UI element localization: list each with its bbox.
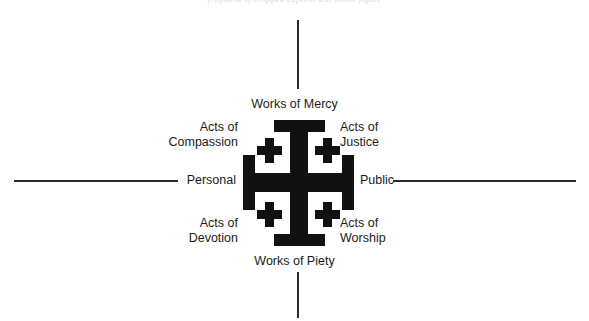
quadrant-label-line1: Acts of — [340, 216, 486, 231]
quadrant-label-line1: Acts of — [340, 120, 486, 135]
axis-label-public: Public — [360, 173, 478, 188]
clipped-caption-text: fragment of cropped caption text above f… — [0, 0, 589, 6]
quadrant-label-acts-of-devotion: Acts of Devotion — [92, 216, 238, 246]
quadrant-label-line1: Acts of — [92, 216, 238, 231]
quadrant-label-line2: Justice — [340, 135, 486, 150]
small-cross-stroke-horizontal — [315, 146, 340, 155]
axis-line-bottom — [297, 272, 299, 318]
axis-label-works-of-mercy: Works of Mercy — [0, 97, 589, 112]
small-cross-top-left-icon — [257, 138, 282, 163]
small-cross-stroke-horizontal — [257, 210, 282, 219]
small-cross-top-right-icon — [315, 138, 340, 163]
axis-line-top — [297, 20, 299, 89]
quadrant-label-line2: Compassion — [92, 135, 238, 150]
jerusalem-cross-icon — [243, 119, 354, 246]
small-cross-stroke-horizontal — [315, 210, 340, 219]
figure-canvas: fragment of cropped caption text above f… — [0, 0, 589, 321]
quadrant-label-line2: Devotion — [92, 231, 238, 246]
small-cross-bottom-left-icon — [257, 202, 282, 227]
quadrant-label-line2: Worship — [340, 231, 486, 246]
cross-horizontal-beam — [243, 173, 354, 192]
small-cross-stroke-horizontal — [257, 146, 282, 155]
quadrant-label-acts-of-justice: Acts of Justice — [340, 120, 486, 150]
small-cross-bottom-right-icon — [315, 202, 340, 227]
quadrant-label-line1: Acts of — [92, 120, 238, 135]
quadrant-label-acts-of-worship: Acts of Worship — [340, 216, 486, 246]
quadrant-label-acts-of-compassion: Acts of Compassion — [92, 120, 238, 150]
axis-label-personal: Personal — [118, 173, 236, 188]
axis-label-works-of-piety: Works of Piety — [0, 254, 589, 269]
